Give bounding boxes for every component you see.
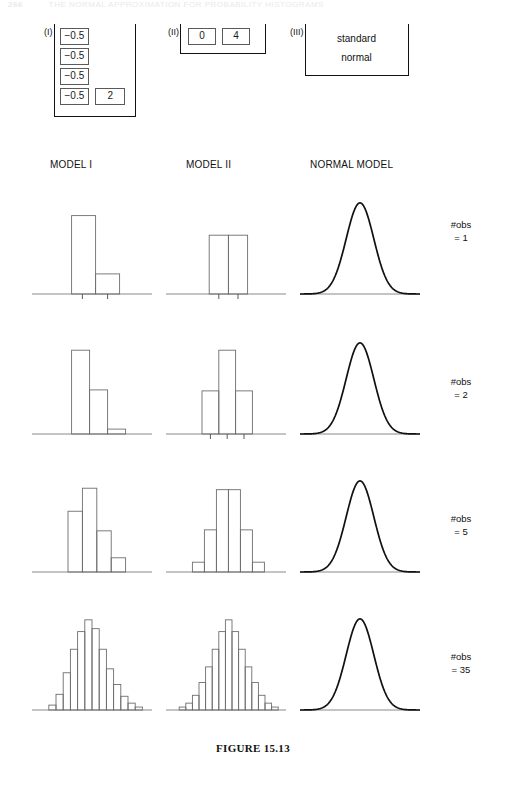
histogram-bar <box>192 562 204 572</box>
histogram-bar <box>72 216 96 294</box>
histogram-bar <box>106 669 113 710</box>
ticket-row: −0.5 2 <box>60 88 130 105</box>
panel-model-ii-obs-2 <box>166 332 286 444</box>
histogram-bar <box>68 511 82 572</box>
page-number: 266 <box>8 0 23 9</box>
histogram-bar <box>99 649 106 710</box>
ticket: −0.5 <box>60 88 90 105</box>
ticket-row: −0.5 <box>60 48 130 65</box>
histogram-bar <box>108 429 126 434</box>
panel-model-ii-obs-35 <box>166 608 286 720</box>
histogram-bar <box>72 350 90 434</box>
row-label-obs-5: #obs= 5 <box>424 512 498 538</box>
column-heading-model-2: MODEL II <box>186 159 231 170</box>
histogram-bar <box>272 707 279 710</box>
histogram-bar <box>63 673 70 710</box>
histogram-bar <box>219 632 226 710</box>
normal-curve <box>300 343 420 434</box>
histogram-bar <box>82 488 96 572</box>
column-headings: MODEL I MODEL II NORMAL MODEL <box>0 159 506 175</box>
box-model-3-roman: (III) <box>290 24 304 37</box>
histogram-bar <box>240 530 252 572</box>
panel-model-i-obs-35 <box>32 608 152 720</box>
box-model-2: (II) 0 4 <box>168 24 266 54</box>
histogram-bar <box>252 683 259 710</box>
box-model-1-tickets: −0.5 −0.5 −0.5 −0.5 2 <box>55 24 135 110</box>
running-head-text: THE NORMAL APPROXIMATION FOR PROBABILITY… <box>49 0 324 9</box>
row-label-line-1: #obs <box>424 650 498 663</box>
running-head: 266THE NORMAL APPROXIMATION FOR PROBABIL… <box>8 0 498 11</box>
ticket: 2 <box>95 88 125 105</box>
ticket: 0 <box>188 28 216 45</box>
panel-model-i-obs-5 <box>32 470 152 582</box>
row-label-line-2: = 2 <box>424 388 498 401</box>
box-model-3-container: standard normal <box>305 24 409 76</box>
row-label-obs-2: #obs= 2 <box>424 375 498 401</box>
box-model-1-roman: (I) <box>44 24 53 37</box>
histogram-bar <box>209 235 228 294</box>
histogram-bar <box>97 531 111 572</box>
histogram-bar <box>232 632 239 710</box>
histogram-bar <box>192 695 199 710</box>
column-heading-normal-model: NORMAL MODEL <box>310 159 393 170</box>
column-heading-model-1: MODEL I <box>50 159 92 170</box>
histogram-bar <box>186 703 193 710</box>
box-model-1: (I) −0.5 −0.5 −0.5 −0.5 2 <box>44 24 136 117</box>
histogram-bar <box>216 490 228 572</box>
panel-model-ii-obs-5 <box>166 470 286 582</box>
histogram-bar <box>90 390 108 434</box>
box-models-row: (I) −0.5 −0.5 −0.5 −0.5 2 (II) <box>0 24 506 134</box>
box-model-3-line-1: standard <box>306 29 408 48</box>
box-model-3-text: standard normal <box>306 24 408 67</box>
normal-curve <box>300 203 420 294</box>
ticket-row: −0.5 <box>60 28 130 45</box>
ticket: 4 <box>222 28 250 45</box>
histogram-bar <box>206 667 213 710</box>
row-label-line-1: #obs <box>424 512 498 525</box>
box-model-2-tickets: 0 4 <box>181 24 265 50</box>
panel-normal-model-obs-5 <box>300 470 420 582</box>
histogram-bar <box>258 695 265 710</box>
histogram-bar <box>239 649 246 710</box>
histogram-bar <box>70 649 77 710</box>
box-model-3-line-2: normal <box>306 48 408 67</box>
ticket: −0.5 <box>60 48 90 65</box>
ticket: −0.5 <box>60 28 90 45</box>
histogram-bar <box>225 620 232 710</box>
histogram-bar <box>228 490 240 572</box>
row-label-line-1: #obs <box>424 375 498 388</box>
ticket-row: −0.5 <box>60 68 130 85</box>
histogram-bar <box>228 235 247 294</box>
box-model-3: (III) standard normal <box>290 24 409 76</box>
row-label-line-1: #obs <box>424 218 498 231</box>
histogram-bar <box>111 558 125 572</box>
panel-model-i-obs-2 <box>32 332 152 444</box>
figure-caption: FIGURE 15.13 <box>0 742 506 754</box>
histogram-bar <box>49 705 56 710</box>
histogram-bar <box>212 649 219 710</box>
histogram-bar <box>78 632 85 710</box>
histogram-bar <box>114 685 121 710</box>
panel-normal-model-obs-2 <box>300 332 420 444</box>
histogram-bar <box>85 620 92 710</box>
histogram-bar <box>219 350 236 434</box>
box-model-2-roman: (II) <box>168 24 179 37</box>
normal-curve <box>300 619 420 710</box>
histogram-bar <box>245 667 252 710</box>
box-model-2-container: 0 4 <box>180 24 266 54</box>
row-label-line-2: = 5 <box>424 525 498 538</box>
histogram-bar <box>265 703 272 710</box>
histogram-bar <box>128 703 135 710</box>
histogram-bar <box>121 696 128 710</box>
row-label-line-2: = 35 <box>424 663 498 676</box>
histogram-bar <box>135 707 142 710</box>
panel-model-ii-obs-1 <box>166 192 286 304</box>
histogram-bar <box>236 391 253 434</box>
row-label-obs-35: #obs= 35 <box>424 650 498 676</box>
row-label-line-2: = 1 <box>424 231 498 244</box>
histogram-bar <box>204 530 216 572</box>
histogram-bar <box>56 694 63 710</box>
histogram-bar <box>96 274 120 294</box>
histogram-bar <box>179 707 186 710</box>
histogram-bar <box>252 562 264 572</box>
